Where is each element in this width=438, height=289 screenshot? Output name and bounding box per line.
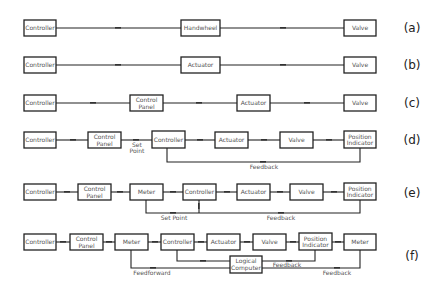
box-label: Indicator (347, 139, 374, 146)
arrow-icon (198, 241, 204, 243)
row-c: Controller Control Panel Actuator Valve … (24, 95, 420, 111)
arrow-icon (280, 27, 286, 29)
arrow-icon (152, 241, 158, 243)
feedforward-label: Feedforward (133, 269, 171, 276)
arrow-icon (170, 191, 176, 193)
arrow-icon (335, 241, 341, 243)
arrow-icon (60, 241, 66, 243)
arrow-icon (64, 191, 70, 193)
row-f: Controller Control Panel Meter Controlle… (24, 233, 419, 276)
box-label: Indicator (302, 241, 329, 248)
box-label: Controller (25, 136, 55, 143)
arrow-icon (90, 102, 96, 104)
box-label: Indicator (347, 191, 374, 198)
box-label: Valve (352, 24, 369, 31)
box-label: Meter (138, 188, 156, 195)
arrow-icon (198, 203, 200, 209)
arrow-icon (115, 27, 121, 29)
set-point-label: Set Point (161, 214, 188, 221)
box-label: Controller (25, 24, 55, 31)
box-label: Computer (231, 264, 261, 272)
row-d: Controller Control Panel Set Point Contr… (24, 131, 420, 170)
arrow-icon (115, 64, 121, 66)
box-label: Panel (86, 192, 103, 199)
feedback-label: Feedback (273, 261, 302, 268)
row-label: (e) (404, 186, 421, 200)
set-point-label: Point (130, 147, 146, 154)
arrow-icon (331, 191, 337, 193)
arrow-icon (70, 139, 76, 141)
box-label: Handwheel (184, 24, 218, 31)
arrow-icon (244, 241, 250, 243)
arrow-icon (261, 139, 267, 141)
arrow-icon (280, 64, 286, 66)
box-label: Controller (25, 99, 55, 106)
row-label: (f) (405, 249, 419, 263)
box-label: Controller (185, 188, 215, 195)
box-label: Panel (96, 140, 113, 147)
row-label: (d) (404, 133, 421, 147)
arrow-icon (224, 191, 230, 193)
row-label: (a) (404, 21, 421, 35)
box-label: Panel (138, 103, 155, 110)
row-label: (b) (404, 58, 421, 72)
box-label: Valve (352, 61, 369, 68)
box-label: Valve (352, 99, 369, 106)
arrow-icon (304, 102, 310, 104)
arrow-icon (277, 191, 283, 193)
arrow-icon (117, 191, 123, 193)
box-label: Controller (25, 188, 55, 195)
box-label: Actuator (188, 61, 214, 68)
box-label: Panel (78, 242, 95, 249)
box-label: Actuator (241, 99, 267, 106)
feedback-label: Feedback (250, 163, 279, 170)
row-label: (c) (404, 96, 420, 110)
box-label: Valve (288, 136, 305, 143)
arrow-icon (106, 241, 112, 243)
box-label: Meter (123, 238, 141, 245)
row-a: Controller Handwheel Valve (a) (24, 20, 420, 36)
box-label: Meter (351, 238, 369, 245)
arrow-icon (197, 139, 203, 141)
arrow-icon (196, 102, 202, 104)
box-label: Valve (261, 238, 278, 245)
row-b: Controller Actuator Valve (b) (24, 57, 420, 73)
row-e: Controller Control Panel Meter Controlle… (24, 183, 420, 221)
feedback-label: Feedback (267, 214, 296, 221)
box-label: Actuator (211, 238, 237, 245)
box-label: Actuator (219, 136, 245, 143)
box-label: Controller (25, 238, 55, 245)
box-label: Controller (25, 61, 55, 68)
arrow-icon (290, 241, 296, 243)
box-label: Valve (298, 188, 315, 195)
box-label: Controller (154, 136, 184, 143)
control-architecture-diagram: Controller Handwheel Valve (a) Controlle… (0, 0, 438, 289)
arrow-icon (326, 139, 332, 141)
box-label: Controller (163, 238, 193, 245)
box-label: Actuator (241, 188, 267, 195)
arrow-icon (200, 260, 206, 262)
feedback-label: Feedback (323, 269, 352, 276)
